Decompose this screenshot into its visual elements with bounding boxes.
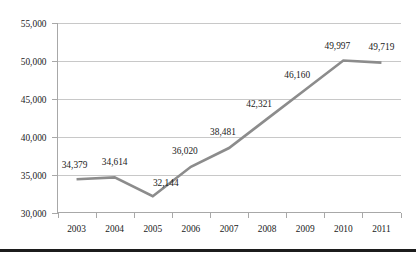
x-axis-tick-labels: 200320042005200620072008200920102011 [67,224,391,234]
x-axis-tick-label: 2005 [143,224,162,234]
x-axis-tick-label: 2007 [220,224,239,234]
data-point-label: 38,481 [210,127,236,137]
y-axis-tick-label: 45,000 [21,95,47,105]
data-point-label: 36,020 [172,146,198,156]
y-axis-tick-label: 30,000 [21,209,47,219]
data-point-label: 49,719 [369,42,395,52]
data-point-label: 32,144 [153,178,179,188]
y-axis-tick-label: 40,000 [21,133,47,143]
chart-canvas: 30,00035,00040,00045,00050,00055,000 200… [0,0,416,263]
x-axis-tick-label: 2009 [296,224,315,234]
y-axis-tick-label: 55,000 [21,19,47,29]
data-point-label: 34,379 [62,160,88,170]
x-axis-tick-label: 2003 [67,224,86,234]
data-point-label: 49,997 [324,41,350,51]
y-axis-tick-label: 35,000 [21,171,47,181]
x-axis-tick-label: 2006 [182,224,201,234]
data-point-label: 46,160 [284,70,310,80]
x-axis-tick-label: 2008 [258,224,277,234]
chart-background [0,0,416,263]
x-axis-tick-label: 2004 [105,224,124,234]
x-axis-tick-label: 2010 [334,224,353,234]
line-chart: 30,00035,00040,00045,00050,00055,000 200… [0,0,416,263]
x-axis-tick-label: 2011 [372,224,391,234]
data-point-label: 42,321 [246,99,272,109]
y-axis-tick-label: 50,000 [21,57,47,67]
data-point-label: 34,614 [102,157,128,167]
